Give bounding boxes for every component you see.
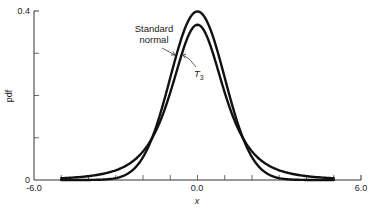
y-tick-label-max: 0.4 bbox=[17, 6, 30, 16]
annotation-t3-sub: 3 bbox=[200, 74, 204, 81]
minor-ticks bbox=[34, 53, 334, 180]
x-axis-label: x bbox=[194, 196, 200, 206]
arrow-t3 bbox=[183, 55, 196, 67]
annotation-t3: T3 bbox=[194, 68, 204, 81]
pdf-chart: 0.4 0 -6.0 0.0 6.0 x pdf Standard normal… bbox=[0, 0, 375, 215]
x-tick-label-min: -6.0 bbox=[26, 183, 42, 193]
y-axis-label: pdf bbox=[4, 89, 14, 102]
curve-standard-normal bbox=[61, 11, 334, 180]
annotation-standard-normal-line2: normal bbox=[139, 34, 168, 45]
curve-t3 bbox=[61, 25, 334, 179]
axes bbox=[34, 11, 361, 180]
annotation-standard-normal-line1: Standard bbox=[135, 23, 174, 34]
x-tick-label-mid: 0.0 bbox=[191, 183, 204, 193]
x-tick-label-max: 6.0 bbox=[355, 183, 368, 193]
